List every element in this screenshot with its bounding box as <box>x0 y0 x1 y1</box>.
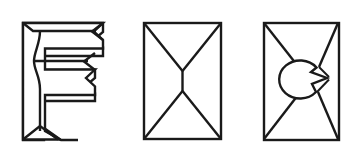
figure-svg <box>0 0 358 159</box>
letter-f-body-path <box>23 23 103 140</box>
shape-rectangle-circle-notch <box>264 23 339 140</box>
figure-canvas: Three outline line-drawing shapes F Bloc… <box>0 0 358 159</box>
shape-rectangle-bowtie <box>144 23 221 139</box>
shape-letter-f-outline <box>23 23 103 140</box>
